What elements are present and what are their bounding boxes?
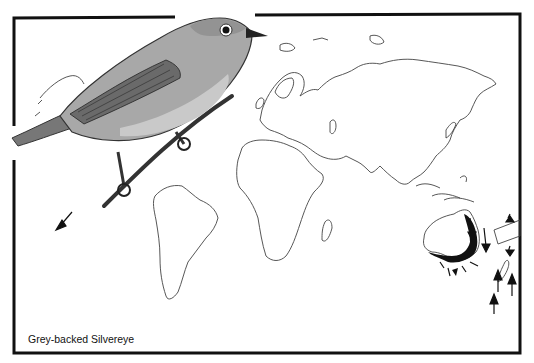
range-map-illustration <box>0 0 534 363</box>
arctic-islands <box>280 35 384 51</box>
africa-coast <box>237 140 324 261</box>
south-america-coast <box>153 185 218 298</box>
scandinavia-coast <box>275 78 294 98</box>
dateline-band <box>494 220 520 244</box>
migration-arrows <box>56 212 516 314</box>
map-frame <box>14 14 520 353</box>
beak <box>246 28 268 38</box>
breeding-range <box>428 214 477 276</box>
caspian-sea <box>330 120 336 134</box>
species-caption: Grey-backed Silvereye <box>28 333 134 345</box>
southeast-asia-islands <box>416 176 474 202</box>
madagascar-coast <box>322 220 332 241</box>
bird-illustration <box>12 18 268 206</box>
eurasia-coast <box>260 59 496 184</box>
